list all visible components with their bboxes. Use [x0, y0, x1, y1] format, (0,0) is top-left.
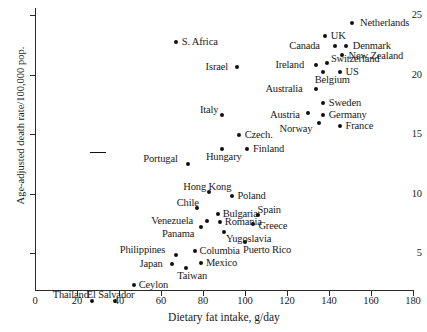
data-point	[218, 220, 222, 224]
data-point-label: Canada	[289, 40, 320, 51]
data-point	[306, 111, 310, 115]
data-point	[174, 40, 178, 44]
x-tick-label: 140	[309, 296, 349, 307]
data-point-label: Israel	[206, 61, 228, 72]
data-point-label: France	[346, 120, 374, 131]
data-point	[321, 113, 325, 117]
data-point-label: Yugoslavia	[226, 233, 271, 244]
data-point-label: Portugal	[143, 153, 177, 164]
data-point	[338, 124, 342, 128]
data-point-label: UK	[331, 30, 346, 41]
data-point	[325, 61, 329, 65]
data-point	[199, 261, 203, 265]
data-point	[314, 63, 318, 67]
data-point	[235, 65, 239, 69]
data-point	[333, 44, 337, 48]
data-point	[314, 87, 318, 91]
data-point-label: Poland	[237, 190, 265, 201]
data-point-label: Italy	[200, 104, 219, 115]
data-point	[237, 133, 241, 137]
data-point	[220, 113, 224, 117]
y-axis-line	[35, 8, 36, 290]
data-point-label: Ireland	[275, 59, 304, 70]
x-axis-title: Dietary fat intake, g/day	[35, 311, 413, 323]
data-point	[350, 21, 354, 25]
data-point-label: Columbia	[200, 245, 240, 256]
y-tick-mark	[30, 134, 36, 135]
data-point-label: Greece	[258, 220, 287, 231]
data-point	[170, 262, 174, 266]
data-point	[245, 147, 249, 151]
data-point	[174, 253, 178, 257]
data-point-label: Denmark	[353, 40, 391, 51]
x-tick-label: 80	[183, 296, 223, 307]
data-point-label: Netherlands	[360, 17, 409, 28]
y-tick-label: 10	[396, 189, 422, 200]
x-tick-label: 60	[141, 296, 181, 307]
data-point	[323, 34, 327, 38]
x-tick-label: 100	[225, 296, 265, 307]
x-tick-label: 180	[393, 296, 427, 307]
data-point	[205, 219, 209, 223]
data-point-label: Chile	[177, 197, 199, 208]
data-point	[230, 194, 234, 198]
data-point	[338, 70, 342, 74]
data-point-label: Finland	[253, 143, 284, 154]
data-point-label: Ceylon	[139, 279, 168, 290]
data-point-label: Venezuela	[151, 215, 193, 226]
data-point-label: Panama	[162, 228, 194, 239]
x-tick-label: 160	[351, 296, 391, 307]
y-tick-label: 15	[396, 129, 422, 140]
data-point	[193, 249, 197, 253]
data-point-label: Mexico	[206, 257, 237, 268]
data-point	[199, 225, 203, 229]
data-point-label: Thailand	[53, 289, 89, 300]
y-tick-mark	[30, 75, 36, 76]
data-point	[317, 121, 321, 125]
data-point-label: Spain	[258, 204, 281, 215]
data-point-label: Australia	[265, 83, 302, 94]
data-point-label: Japan	[140, 258, 163, 269]
data-point	[90, 299, 94, 303]
data-point-label: S. Africa	[182, 36, 218, 47]
data-point-label: Norway	[280, 123, 313, 134]
figure-caption	[14, 325, 414, 332]
y-tick-label: 5	[396, 248, 422, 259]
data-point-label: US	[346, 66, 359, 77]
label-leader-line	[90, 152, 106, 153]
data-point-label: Austria	[270, 109, 300, 120]
data-point-label: Hungary	[206, 151, 242, 162]
data-point-label: Switzerland	[331, 53, 380, 64]
data-point	[344, 44, 348, 48]
data-point-label: Romania	[225, 216, 262, 227]
y-tick-label: 20	[396, 70, 422, 81]
data-point	[321, 101, 325, 105]
data-point-label: Puerto Rico	[243, 244, 291, 255]
data-point-label: Czech.	[245, 129, 273, 140]
y-tick-mark	[30, 194, 36, 195]
data-point-label: Taiwan	[177, 270, 207, 281]
y-tick-mark	[30, 253, 36, 254]
data-point	[132, 283, 136, 287]
x-tick-label: 120	[267, 296, 307, 307]
data-point-label: Hong Kong	[183, 181, 231, 192]
data-point-label: Germany	[329, 109, 367, 120]
x-tick-label: 0	[15, 296, 55, 307]
data-point	[216, 212, 220, 216]
y-tick-mark	[30, 15, 36, 16]
data-point-label: Sweden	[329, 97, 361, 108]
data-point-label: El Salvador	[87, 289, 135, 300]
y-axis-title: Age-adjusted death rate/100,000 pop.	[15, 1, 26, 251]
data-point-label: Philippines	[120, 244, 166, 255]
data-point	[186, 162, 190, 166]
